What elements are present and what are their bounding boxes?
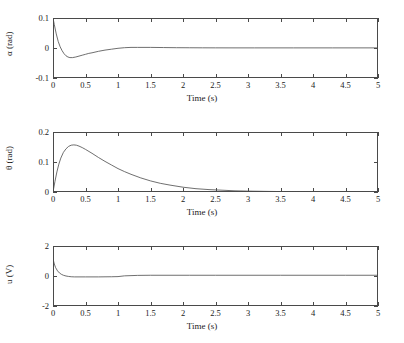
y-tick-mark (53, 78, 57, 79)
x-axis-title: Time (s) (0, 207, 404, 217)
y-tick-mark (53, 306, 57, 307)
y-axis-title-text: u (V) (4, 266, 14, 284)
x-tick-label: 4.5 (340, 309, 351, 318)
y-tick-label: -0.1 (0, 74, 49, 83)
x-tick-label: 5 (376, 195, 380, 204)
x-tick-mark (378, 302, 379, 306)
x-tick-label: 1.5 (145, 195, 156, 204)
x-tick-label: 0.5 (80, 195, 91, 204)
y-tick-label: 0.1 (0, 14, 49, 23)
x-tick-mark (378, 246, 379, 250)
x-tick-label: 1.5 (145, 81, 156, 90)
y-tick-mark (53, 192, 57, 193)
x-axis-title: Time (s) (0, 321, 404, 331)
y-tick-mark (374, 192, 378, 193)
y-axis-title-text: θ (rad) (4, 152, 14, 170)
x-tick-label: 0 (51, 195, 55, 204)
y-tick-label: 0.2 (0, 128, 49, 137)
x-tick-label: 5 (376, 81, 380, 90)
x-tick-label: 3.5 (275, 309, 286, 318)
x-tick-mark (378, 132, 379, 136)
plot-panel-alpha-response: 00.511.522.533.544.55-0.100.1Time (s)α (… (0, 2, 404, 116)
plot-area-u-control-effort (53, 246, 378, 306)
x-tick-mark (378, 188, 379, 192)
plot-panel-theta-response: 00.511.522.533.544.5500.10.2Time (s)θ (r… (0, 116, 404, 230)
x-tick-label: 2.5 (210, 195, 221, 204)
y-tick-mark (374, 78, 378, 79)
x-tick-label: 2 (181, 81, 185, 90)
x-tick-mark (378, 18, 379, 22)
x-tick-label: 3 (246, 81, 250, 90)
x-tick-label: 3 (246, 309, 250, 318)
x-tick-label: 2 (181, 195, 185, 204)
x-tick-label: 2.5 (210, 309, 221, 318)
y-tick-label: 2 (0, 242, 49, 251)
x-axis-title: Time (s) (0, 93, 404, 103)
x-tick-label: 0 (51, 309, 55, 318)
y-axis-title: θ (rad) (0, 156, 18, 166)
x-tick-label: 2.5 (210, 81, 221, 90)
x-tick-label: 4 (311, 195, 315, 204)
y-axis-title: α (rad) (0, 42, 18, 52)
multi-panel-figure: 00.511.522.533.544.55-0.100.1Time (s)α (… (0, 0, 404, 343)
series-line (53, 259, 378, 277)
x-tick-label: 3.5 (275, 195, 286, 204)
series-line (53, 18, 378, 58)
x-tick-label: 0.5 (80, 81, 91, 90)
x-tick-label: 1.5 (145, 309, 156, 318)
x-tick-label: 3.5 (275, 81, 286, 90)
x-tick-mark (378, 74, 379, 78)
x-tick-label: 5 (376, 309, 380, 318)
y-tick-label: 0 (0, 188, 49, 197)
x-tick-label: 4.5 (340, 81, 351, 90)
x-tick-label: 1 (116, 195, 120, 204)
x-tick-label: 1 (116, 81, 120, 90)
x-tick-label: 0.5 (80, 309, 91, 318)
x-tick-label: 4 (311, 309, 315, 318)
y-tick-label: -2 (0, 302, 49, 311)
x-tick-label: 3 (246, 195, 250, 204)
series-line (53, 145, 378, 192)
data-curve-theta-response (53, 132, 378, 192)
x-tick-label: 4 (311, 81, 315, 90)
x-tick-label: 4.5 (340, 195, 351, 204)
plot-area-theta-response (53, 132, 378, 192)
x-tick-label: 0 (51, 81, 55, 90)
x-tick-label: 2 (181, 309, 185, 318)
data-curve-u-control-effort (53, 246, 378, 306)
plot-area-alpha-response (53, 18, 378, 78)
y-axis-title: u (V) (0, 270, 18, 280)
data-curve-alpha-response (53, 18, 378, 78)
x-tick-label: 1 (116, 309, 120, 318)
plot-panel-u-control-effort: 00.511.522.533.544.55-202Time (s)u (V) (0, 230, 404, 343)
y-tick-mark (374, 306, 378, 307)
y-axis-title-text: α (rad) (4, 38, 14, 56)
